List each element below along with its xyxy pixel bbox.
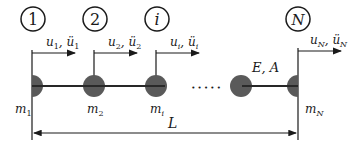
displacement-label-i: ui, üi [170,35,199,51]
displacement-label-2: u2, ü2 [108,35,141,51]
svg-text:2: 2 [90,10,100,29]
svg-text:1: 1 [28,10,38,29]
mass-label-N: mN [305,102,324,118]
node-label-2: 2 [83,7,107,31]
ellipsis: • • • • • [191,84,221,92]
node-label-1: 1 [21,7,45,31]
material-label: E, A [251,60,279,75]
lumped-mass-diagram: 1 2 i N u1, ü1 u2, ü2 ui, üi uN, üN [0,0,362,148]
displacement-label-1: u1, ü1 [46,35,79,51]
mass-label-i: mi [150,102,164,118]
node-label-N: N [286,7,310,31]
displacement-label-N: uN, üN [310,33,348,49]
length-label: L [167,115,177,131]
mass-label-1: m1 [15,102,31,118]
mass-label-2: m2 [87,102,103,118]
svg-text:i: i [154,10,159,29]
svg-text:N: N [290,11,305,29]
node-label-i: i [145,7,169,31]
